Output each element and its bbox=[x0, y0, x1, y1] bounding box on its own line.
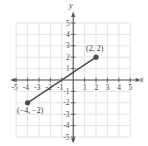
y-tick-label-neg4: -4 bbox=[63, 122, 69, 130]
x-tick-label-neg4: -4 bbox=[23, 84, 29, 92]
y-tick-label-5: 5 bbox=[66, 20, 70, 28]
x-tick-label-3: 3 bbox=[106, 84, 110, 92]
y-tick-label-3: 3 bbox=[66, 42, 70, 50]
y-tick-label-4: 4 bbox=[66, 31, 70, 39]
x-axis-label: x bbox=[140, 76, 144, 84]
y-tick-label-neg1: -1 bbox=[63, 88, 69, 96]
x-axis bbox=[10, 78, 141, 82]
x-tick-label-neg3: -3 bbox=[34, 84, 40, 92]
x-tick-label-2: 2 bbox=[94, 84, 98, 92]
y-tick-label-2: 2 bbox=[66, 54, 70, 62]
graph-canvas bbox=[0, 0, 148, 146]
y-tick-label-neg2: -2 bbox=[63, 99, 69, 107]
point-label-upper: (2, 2) bbox=[86, 45, 103, 53]
x-tick-label-neg5: -5 bbox=[11, 84, 17, 92]
y-axis-label: y bbox=[69, 2, 73, 10]
y-tick-label-1: 1 bbox=[66, 65, 70, 73]
x-tick-label-1: 1 bbox=[83, 84, 87, 92]
y-tick-label-neg5: -5 bbox=[63, 134, 69, 142]
y-axis bbox=[71, 12, 75, 144]
coordinate-plane-figure: x y -5 -4 -3 -2 -1 1 2 3 4 5 5 4 3 2 1 -… bbox=[0, 0, 148, 146]
point-label-lower: (−4, −2) bbox=[17, 107, 43, 115]
y-tick-label-neg3: -3 bbox=[63, 111, 69, 119]
x-tick-label-4: 4 bbox=[117, 84, 121, 92]
x-tick-label-5: 5 bbox=[129, 84, 133, 92]
x-tick-label-neg2: -2 bbox=[46, 84, 52, 92]
